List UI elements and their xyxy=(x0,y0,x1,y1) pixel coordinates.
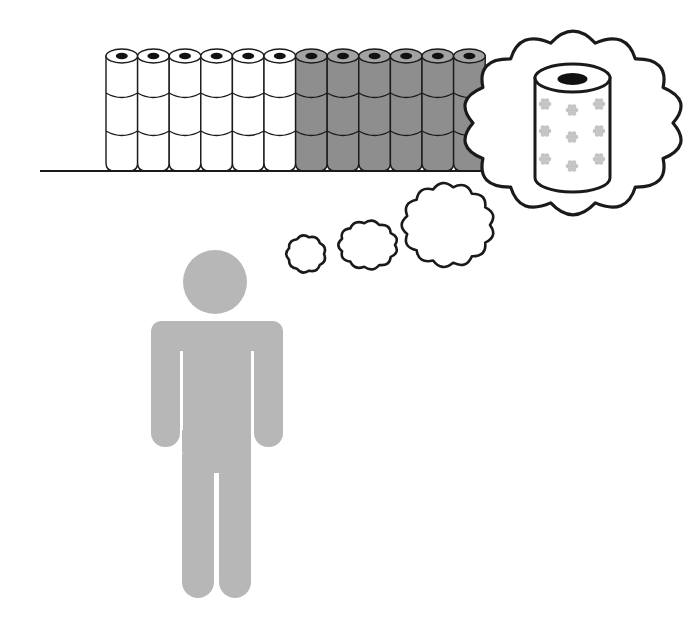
person-hips xyxy=(182,430,251,452)
roll-body xyxy=(106,56,138,171)
roll-hole xyxy=(147,53,159,59)
roll-hole xyxy=(400,53,412,59)
roll-body xyxy=(422,56,454,171)
roll-stack xyxy=(106,49,138,171)
roll-body xyxy=(264,56,296,171)
roll-hole xyxy=(337,53,349,59)
roll-hole xyxy=(369,53,381,59)
roll-body xyxy=(327,56,359,171)
roll-hole xyxy=(116,53,128,59)
roll-hole xyxy=(179,53,191,59)
roll-stack xyxy=(359,49,391,171)
thought-bubble-medium xyxy=(338,221,396,270)
roll-hole xyxy=(242,53,254,59)
thought-bubble-large xyxy=(402,183,494,267)
roll-body xyxy=(232,56,264,171)
roll-stack xyxy=(138,49,170,171)
roll-stack xyxy=(264,49,296,171)
roll-stack xyxy=(169,49,201,171)
roll-body xyxy=(390,56,422,171)
person-right-leg xyxy=(219,440,251,598)
roll-stack xyxy=(390,49,422,171)
roll-body xyxy=(201,56,233,171)
person-head xyxy=(183,250,247,314)
toilet-paper-shelf xyxy=(106,49,485,171)
person-left-leg xyxy=(182,440,214,598)
roll-body xyxy=(359,56,391,171)
person-figure-icon xyxy=(151,250,283,598)
roll-hole xyxy=(274,53,286,59)
roll-body xyxy=(138,56,170,171)
roll-stack xyxy=(201,49,233,171)
roll-hole xyxy=(463,53,475,59)
roll-stack xyxy=(232,49,264,171)
roll-hole xyxy=(211,53,223,59)
illustration-canvas xyxy=(0,0,698,634)
roll-stack xyxy=(327,49,359,171)
thought-bubble-small xyxy=(286,235,325,272)
roll-body xyxy=(296,56,328,171)
roll-stack xyxy=(422,49,454,171)
dream-roll-hole xyxy=(558,73,588,85)
dream-toilet-roll-icon xyxy=(535,64,610,192)
roll-hole xyxy=(432,53,444,59)
roll-hole xyxy=(305,53,317,59)
roll-body xyxy=(169,56,201,171)
roll-stack xyxy=(296,49,328,171)
